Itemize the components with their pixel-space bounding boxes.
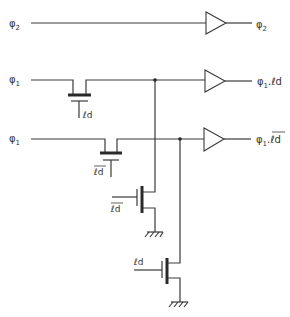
phi1-a-output-wire	[86, 80, 205, 95]
phi2-row: φ2 φ2	[9, 12, 267, 34]
gate-label-pass2: ℓd	[93, 167, 103, 177]
output-label-phi2: φ2	[256, 19, 267, 33]
phi1-b-input-wire	[31, 139, 105, 153]
buffer-phi1-ld-icon	[205, 70, 225, 92]
pulldown-1-source-wire	[143, 208, 155, 232]
gate-label-pass1: ℓd	[82, 110, 92, 120]
gate-label-pulldown2: ℓd	[133, 257, 143, 267]
circuit-diagram: φ2 φ2 φ1 ℓd φ1.ℓd φ1 ℓd	[0, 0, 290, 317]
phi1-b-output-wire	[117, 139, 204, 153]
phi1-a-input-wire	[31, 80, 73, 95]
gate-label-pulldown1: ℓd	[110, 204, 120, 214]
ground-icon	[169, 302, 188, 307]
buffer-phi1-ldbar-icon	[204, 128, 224, 151]
output-label-phi1-ld: φ1.ℓd	[257, 76, 282, 90]
ground-icon	[145, 232, 163, 237]
input-label-phi1-a: φ1	[9, 74, 20, 88]
pulldown-2: ℓd	[133, 139, 188, 307]
phi1-ld-row: φ1 ℓd φ1.ℓd	[9, 70, 282, 120]
pulldown-2-drain-wire	[168, 139, 180, 263]
input-label-phi2: φ2	[9, 18, 20, 32]
phi1-ldbar-row: φ1 ℓd φ1.ℓd	[9, 128, 285, 177]
pulldown-1: ℓd	[110, 80, 163, 237]
output-label-phi1-ldbar: φ1.ℓd	[256, 134, 281, 148]
pulldown-2-source-wire	[168, 278, 180, 302]
buffer-phi2-icon	[206, 12, 226, 34]
pulldown-1-drain-wire	[143, 80, 155, 192]
input-label-phi1-b: φ1	[9, 133, 20, 147]
